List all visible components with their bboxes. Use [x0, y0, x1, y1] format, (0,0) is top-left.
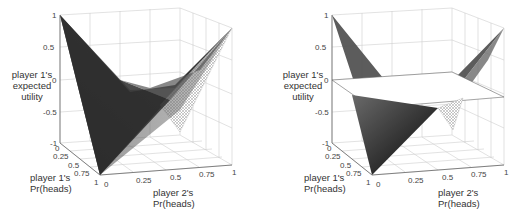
p1-tick: 1: [366, 178, 370, 187]
p1-tick: 0.25: [53, 152, 69, 161]
p1-tick: 0.75: [74, 169, 90, 178]
z-axis-label: player 1's expected utility: [278, 69, 328, 102]
p1-axis-label: player 1's Pr(heads): [304, 172, 346, 194]
surface-plot-right: 1 0.5 0 -0.5 -1 0 0.25 0.5 0.75 1 0 0.25…: [258, 0, 516, 216]
p2-axis-label: player 2's Pr(heads): [438, 187, 480, 209]
p2-tick: 1: [504, 168, 508, 177]
p1-tick: 1: [94, 178, 98, 187]
z-tick: -0.5: [315, 108, 329, 117]
p2-tick: 1: [232, 168, 236, 177]
p2-tick: 0.25: [408, 176, 424, 185]
p1-tick: 0.75: [346, 169, 362, 178]
p2-tick: 0.75: [471, 170, 487, 179]
z-tick: 0.5: [315, 43, 326, 52]
p2-tick: 0.5: [442, 173, 453, 182]
z-tick: 0.5: [43, 43, 54, 52]
p2-tick: 0.5: [170, 173, 181, 182]
z-tick: 1: [52, 11, 56, 20]
p1-axis-label: player 1's Pr(heads): [30, 172, 72, 194]
p2-tick: 0.75: [199, 170, 215, 179]
p2-axis-label: player 2's Pr(heads): [153, 187, 195, 209]
p1-tick: 0.25: [325, 152, 341, 161]
p2-tick: 0: [104, 180, 108, 189]
surface-plot-left: 1 0.5 0 -0.5 -1 0 0.25 0.5 0.75 1 0 0.25…: [0, 0, 258, 216]
p2-tick: 0: [376, 180, 380, 189]
surface-plot-right-graphic: [258, 0, 516, 216]
z-axis-label: player 1's expected utility: [8, 69, 56, 102]
p2-tick: 0.25: [136, 176, 152, 185]
z-tick: -0.5: [43, 108, 57, 117]
z-tick: 1: [324, 11, 328, 20]
